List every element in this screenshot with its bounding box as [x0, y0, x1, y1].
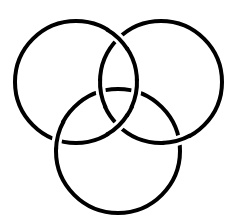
ring-bottom [56, 89, 180, 213]
rings-group [15, 21, 222, 213]
diagram-canvas: Borromean rings [0, 0, 238, 221]
borromean-rings-diagram [0, 0, 238, 221]
